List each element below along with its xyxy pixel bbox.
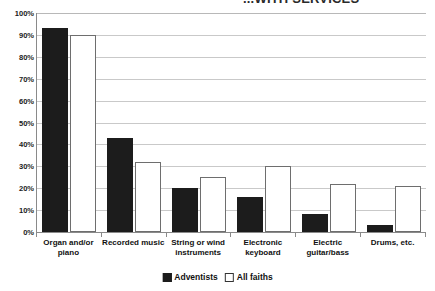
bar-all-faiths — [265, 166, 291, 232]
legend-item-adventists: Adventists — [162, 273, 217, 282]
x-axis-label: Recorded music — [101, 238, 166, 248]
bar-adventists — [172, 188, 198, 232]
y-axis-tick — [28, 79, 34, 80]
bar-adventists — [302, 214, 328, 232]
y-axis-tick — [28, 232, 34, 233]
x-axis-label: Drums, etc. — [360, 238, 425, 248]
bar-all-faiths — [330, 184, 356, 232]
bar-all-faiths — [70, 35, 96, 232]
legend-label: Adventists — [174, 273, 217, 282]
bar-all-faiths — [395, 186, 421, 232]
x-axis-tick — [101, 232, 102, 237]
bar-all-faiths — [200, 177, 226, 232]
x-axis-tick — [360, 232, 361, 237]
hollow-square-icon — [225, 273, 234, 282]
bar-adventists — [42, 28, 68, 232]
x-axis-tick — [230, 232, 231, 237]
y-axis-tick — [28, 57, 34, 58]
legend-label: All faiths — [237, 273, 273, 282]
y-axis-tick — [28, 35, 34, 36]
filled-square-icon — [162, 273, 171, 282]
y-axis-tick — [28, 166, 34, 167]
y-axis-tick — [28, 123, 34, 124]
bar-adventists — [237, 197, 263, 232]
gridline — [37, 13, 426, 14]
x-axis-label: String or wind instruments — [166, 238, 231, 258]
y-axis-tick — [28, 13, 34, 14]
x-axis-tick — [36, 232, 37, 237]
y-axis-tick — [28, 101, 34, 102]
plot-area — [36, 13, 426, 233]
x-axis-tick — [295, 232, 296, 237]
bar-all-faiths — [135, 162, 161, 232]
y-axis-tick — [28, 144, 34, 145]
bar-adventists — [107, 138, 133, 232]
y-axis-tick — [28, 188, 34, 189]
x-axis-label: Electric guitar/bass — [295, 238, 360, 258]
legend-item-all-faiths: All faiths — [225, 273, 273, 282]
x-axis-tick — [425, 232, 426, 237]
x-axis-tick — [166, 232, 167, 237]
bar-chart: ...WITH SERVICES 100% 90% 80% 70% 60% 50… — [0, 0, 435, 291]
bar-adventists — [367, 225, 393, 232]
chart-legend: Adventists All faiths — [159, 272, 275, 283]
x-axis-label: Electronic keyboard — [231, 238, 296, 258]
y-axis-tick — [28, 210, 34, 211]
x-axis-label: Organ and/or piano — [36, 238, 101, 258]
